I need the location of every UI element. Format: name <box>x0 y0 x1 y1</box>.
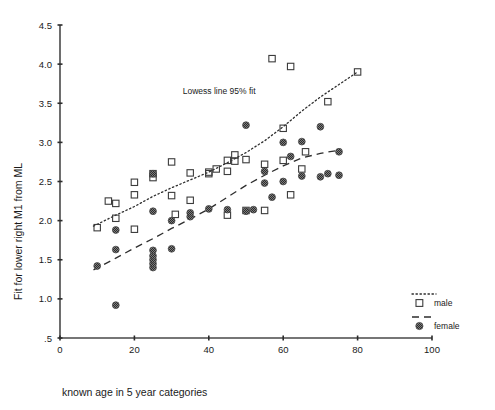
y-tick-label: 2.5 <box>39 176 52 187</box>
legend-marker-female <box>416 322 423 329</box>
data-point-female <box>287 153 294 160</box>
data-point-male <box>113 200 119 206</box>
data-point-female <box>261 180 268 187</box>
data-point-male <box>105 198 111 204</box>
data-point-male <box>168 192 174 198</box>
x-tick-label: 40 <box>204 344 215 355</box>
x-tick-label: 60 <box>278 344 289 355</box>
data-point-male <box>299 166 305 172</box>
y-tick-label: 1.0 <box>39 293 52 304</box>
data-point-female <box>243 122 250 129</box>
y-tick-label: .5 <box>44 333 52 344</box>
x-tick-label: 20 <box>129 344 140 355</box>
legend-label-female: female <box>434 321 460 331</box>
data-point-female <box>205 205 212 212</box>
data-point-female <box>224 206 231 213</box>
data-point-female <box>317 173 324 180</box>
axis-lines <box>60 25 432 338</box>
data-point-male <box>113 215 119 221</box>
chart-annotations: Lowess line 95% fit <box>183 86 256 96</box>
y-tick-label: 2.0 <box>39 215 52 226</box>
data-point-male <box>131 192 137 198</box>
data-point-male <box>261 161 267 167</box>
legend-marker-male <box>416 300 423 307</box>
x-axis-label: known age in 5 year categories <box>62 386 207 398</box>
fit-lines <box>93 72 357 270</box>
data-point-female <box>150 170 157 177</box>
data-point-female <box>168 245 175 252</box>
y-tick-label: 1.5 <box>39 254 52 265</box>
data-point-male <box>269 55 275 61</box>
data-point-male <box>243 156 249 162</box>
data-point-male <box>187 170 193 176</box>
data-point-male <box>224 168 230 174</box>
y-tick-label: 4.5 <box>39 20 52 31</box>
data-point-male <box>325 98 331 104</box>
series-female-points <box>94 122 343 309</box>
data-point-male <box>302 149 308 155</box>
data-point-female <box>336 148 343 155</box>
data-point-female <box>261 168 268 175</box>
axes <box>60 25 432 338</box>
data-point-female <box>298 138 305 145</box>
data-point-female <box>324 170 331 177</box>
data-point-female <box>112 227 119 234</box>
data-point-male <box>131 226 137 232</box>
data-point-female <box>317 123 324 130</box>
data-point-female <box>269 194 276 201</box>
data-point-female <box>150 247 157 254</box>
data-point-female <box>336 172 343 179</box>
data-point-female <box>150 208 157 215</box>
data-point-female <box>168 217 175 224</box>
data-point-female <box>250 206 257 213</box>
data-point-male <box>168 159 174 165</box>
data-point-male <box>187 197 193 203</box>
y-tick-label: 3.0 <box>39 137 52 148</box>
data-point-female <box>187 209 194 216</box>
y-axis-label: Fit for lower right M1 from ML <box>12 163 24 300</box>
x-tick-label: 80 <box>352 344 363 355</box>
y-tick-label: 4.0 <box>39 59 52 70</box>
x-tick-label: 0 <box>57 344 62 355</box>
scatter-chart: .51.01.52.02.53.03.54.04.5 020406080100 … <box>0 0 495 410</box>
data-point-male <box>172 211 178 217</box>
lowess-annotation: Lowess line 95% fit <box>183 86 256 96</box>
data-point-male <box>287 63 293 69</box>
data-point-male <box>287 192 293 198</box>
data-point-female <box>94 263 101 270</box>
data-point-male <box>261 207 267 213</box>
data-point-female <box>280 139 287 146</box>
data-point-female <box>298 173 305 180</box>
data-point-female <box>280 178 287 185</box>
y-axis-ticks: .51.01.52.02.53.03.54.04.5 <box>39 20 63 344</box>
data-point-female <box>243 208 250 215</box>
y-tick-label: 3.5 <box>39 98 52 109</box>
data-point-male <box>280 157 286 163</box>
legend-label-male: male <box>434 298 453 308</box>
data-point-female <box>112 246 119 253</box>
data-point-male <box>131 179 137 185</box>
data-point-female <box>112 302 119 309</box>
x-tick-label: 100 <box>424 344 440 355</box>
chart-legend: malefemale <box>412 294 460 331</box>
chart-canvas: .51.01.52.02.53.03.54.04.5 020406080100 … <box>0 0 495 410</box>
